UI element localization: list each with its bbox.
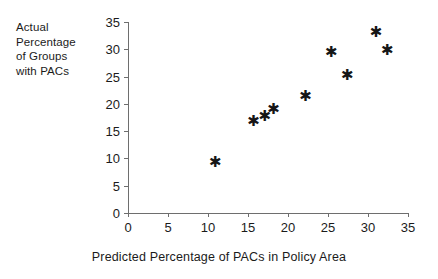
x-axis-line [128,213,409,214]
y-tick-label: 0 [113,206,120,221]
y-tick-label: 20 [106,96,120,111]
x-tick-label: 15 [241,220,255,235]
y-tick-mark [124,104,128,105]
x-tick-mark [408,213,409,217]
y-tick-mark [124,49,128,50]
y-axis-title: Actual Percentage of Groups with PACs [16,20,108,78]
scatter-plot-figure: Actual Percentage of Groups with PACs 05… [0,0,438,279]
y-tick-mark [124,22,128,23]
y-axis-title-line-4: with PACs [16,64,108,79]
y-tick-label: 15 [106,124,120,139]
plot-area: 05101520253035 05101520253035 ✱✱✱✱✱✱✱✱✱ [128,22,408,213]
x-tick-label: 10 [201,220,215,235]
x-tick-label: 20 [281,220,295,235]
y-axis-title-line-2: Percentage [16,35,108,50]
x-tick-mark [368,213,369,217]
x-tick-label: 0 [124,220,131,235]
x-tick-mark [208,213,209,217]
data-point-marker: ✱ [267,104,278,115]
data-point-marker: ✱ [209,157,220,168]
y-tick-mark [124,77,128,78]
data-point-marker: ✱ [381,45,392,56]
y-tick-label: 10 [106,151,120,166]
y-tick-label: 5 [113,178,120,193]
x-tick-label: 5 [164,220,171,235]
data-point-marker: ✱ [370,27,381,38]
y-axis-title-line-1: Actual [16,20,108,35]
data-point-marker: ✱ [341,70,352,81]
x-tick-mark [328,213,329,217]
y-tick-label: 25 [106,69,120,84]
data-point-marker: ✱ [299,91,310,102]
data-point-marker: ✱ [247,116,258,127]
y-tick-label: 35 [106,15,120,30]
x-tick-label: 30 [361,220,375,235]
x-tick-mark [248,213,249,217]
y-tick-label: 30 [106,42,120,57]
y-axis-title-line-3: of Groups [16,49,108,64]
x-tick-label: 35 [401,220,415,235]
x-tick-mark [288,213,289,217]
y-tick-mark [124,158,128,159]
y-tick-mark [124,186,128,187]
y-axis-line [128,22,129,213]
x-tick-mark [168,213,169,217]
x-tick-mark [128,213,129,217]
data-point-marker: ✱ [325,47,336,58]
x-tick-label: 25 [321,220,335,235]
y-tick-mark [124,131,128,132]
x-axis-title: Predicted Percentage of PACs in Policy A… [0,250,438,264]
